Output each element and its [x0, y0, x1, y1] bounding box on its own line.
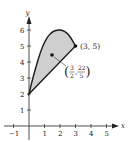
x-tick-label: 3	[74, 130, 78, 138]
region-diagram: −1 1 2 3 4 5 1 2 3 4 5 6 x y (3, 5) ( 3 …	[0, 0, 128, 142]
y-tick-label: 6	[20, 27, 25, 35]
centroid-label: ( 3 2 , 22 5 )	[64, 64, 91, 79]
svg-text:(: (	[64, 64, 69, 79]
y-axis-arrow-icon	[27, 16, 32, 24]
svg-text:3: 3	[70, 64, 74, 71]
x-tick-label: 4	[89, 130, 94, 138]
y-tick-label: 3	[20, 75, 24, 83]
x-tick-label: −1	[9, 130, 19, 138]
x-axis-label: x	[121, 122, 125, 130]
x-axis-arrow-icon	[112, 124, 119, 129]
y-tick-label: 2	[20, 91, 24, 99]
y-axis-label: y	[25, 9, 31, 17]
svg-text:2: 2	[70, 72, 74, 79]
x-tick-label: 2	[58, 130, 62, 138]
y-tick-label: 5	[20, 43, 24, 51]
y-tick-label: 1	[20, 107, 24, 115]
centroid-point	[50, 53, 54, 57]
svg-text:): )	[86, 64, 91, 79]
x-tick-label: 5	[105, 130, 109, 138]
svg-text:5: 5	[80, 72, 84, 79]
y-tick-label: 4	[20, 59, 25, 67]
shaded-region	[29, 30, 76, 94]
x-tick-label: 1	[43, 130, 47, 138]
point-label: (3, 5)	[80, 42, 100, 51]
point-3-5	[74, 44, 78, 48]
